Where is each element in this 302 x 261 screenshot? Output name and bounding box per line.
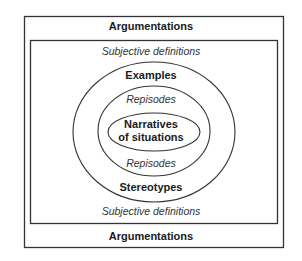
outer-bottom-label: Argumentations	[0, 231, 302, 242]
outer-top-label: Argumentations	[0, 21, 302, 32]
outer-ellipse-top-label: Examples	[0, 70, 302, 81]
inner-ellipse-line2: of situations	[0, 132, 302, 143]
inner-bottom-label: Subjective definitions	[0, 206, 302, 217]
middle-ellipse-bottom-label: Repisodes	[0, 158, 302, 169]
middle-ellipse-top-label: Repisodes	[0, 94, 302, 105]
inner-top-label: Subjective definitions	[0, 46, 302, 57]
outer-ellipse-bottom-label: Stereotypes	[0, 182, 302, 193]
inner-ellipse-line1: Narratives	[0, 119, 302, 130]
